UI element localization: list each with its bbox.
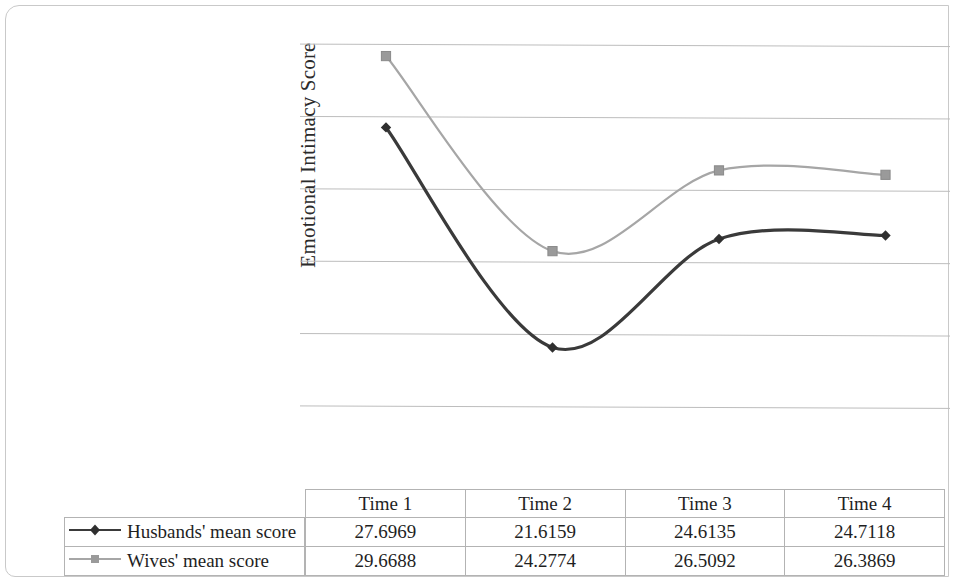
legend-marker-diamond-icon — [67, 518, 123, 546]
data-point-marker — [547, 342, 557, 352]
gridline — [300, 334, 950, 337]
gridlines-group — [300, 44, 950, 408]
gridline — [300, 261, 950, 264]
cell-husbands-time-2: 21.6159 — [465, 518, 625, 547]
gridline — [300, 44, 950, 47]
chart-legend: Husbands' mean score Wives' mean score — [64, 517, 305, 576]
data-point-marker — [381, 51, 390, 60]
gridline — [300, 406, 950, 409]
column-header-time-3: Time 3 — [625, 490, 785, 518]
data-point-marker — [714, 234, 724, 244]
column-header-time-2: Time 2 — [465, 490, 625, 518]
legend-label-wives: Wives' mean score — [127, 547, 269, 575]
legend-row-husbands: Husbands' mean score — [65, 518, 305, 547]
table-row: 27.6969 21.6159 24.6135 24.7118 — [306, 518, 945, 547]
cell-wives-time-2: 24.2774 — [465, 547, 625, 576]
figure-page: Emotional Intimacy Score — [0, 0, 956, 584]
chart-plot-area — [300, 26, 950, 424]
data-point-marker — [881, 170, 890, 179]
column-header-time-1: Time 1 — [306, 490, 466, 518]
cell-husbands-time-3: 24.6135 — [625, 518, 785, 547]
cell-wives-time-1: 29.6688 — [306, 547, 466, 576]
legend-cell-husbands: Husbands' mean score — [65, 518, 305, 547]
data-point-marker — [880, 230, 890, 240]
data-table: Time 1 Time 2 Time 3 Time 4 27.6969 21.6… — [305, 489, 945, 576]
cell-husbands-time-4: 24.7118 — [785, 518, 945, 547]
cell-wives-time-4: 26.3869 — [785, 547, 945, 576]
legend-marker-square-icon — [67, 547, 123, 575]
legend-label-husbands: Husbands' mean score — [127, 518, 296, 546]
gridline — [300, 189, 950, 192]
cell-husbands-time-1: 27.6969 — [306, 518, 466, 547]
legend-row-wives: Wives' mean score — [65, 547, 305, 576]
series-group — [386, 56, 886, 350]
data-point-marker — [548, 247, 557, 256]
legend-cell-wives: Wives' mean score — [65, 547, 305, 576]
table-row: 29.6688 24.2774 26.5092 26.3869 — [306, 547, 945, 576]
cell-wives-time-3: 26.5092 — [625, 547, 785, 576]
series-line-wives — [386, 56, 886, 254]
column-header-time-4: Time 4 — [785, 490, 945, 518]
table-header-row: Time 1 Time 2 Time 3 Time 4 — [306, 490, 945, 518]
gridline — [300, 116, 950, 119]
data-point-marker — [714, 166, 723, 175]
line-chart — [300, 26, 950, 424]
